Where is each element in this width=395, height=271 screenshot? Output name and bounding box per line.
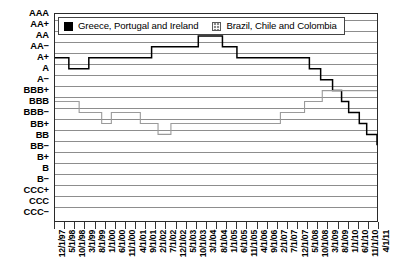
x-axis-label: 11/1/10 [371, 230, 380, 257]
x-axis-label: 5/1/03 [189, 230, 198, 253]
x-axis-label: 9/1/01 [149, 230, 158, 253]
x-axis-label: 12/1/97 [58, 230, 67, 257]
x-axis-label: 9/1/06 [270, 230, 279, 253]
x-axis-tick [338, 222, 339, 229]
x-axis-label: 2/1/02 [159, 230, 168, 253]
x-axis-tick [64, 222, 65, 229]
x-axis-tick [105, 222, 106, 229]
x-axis-label: 3/1/09 [331, 230, 340, 253]
x-axis-tick [74, 222, 75, 229]
legend-entry: Greece, Portugal and Ireland [64, 21, 198, 31]
x-axis-label: 4/1/01 [139, 230, 148, 253]
y-axis-label: BBB+ [24, 85, 49, 94]
x-axis-tick [236, 222, 237, 229]
y-axis-label: BBB− [24, 107, 49, 116]
x-axis-tick [186, 222, 187, 229]
y-axis-label: B− [37, 174, 49, 183]
x-axis-label: 4/1/06 [260, 230, 269, 253]
x-axis-tick [327, 222, 328, 229]
x-axis-tick [216, 222, 217, 229]
y-axis-label: CCC [29, 196, 49, 205]
x-axis-tick [54, 222, 55, 229]
x-axis-label: 8/1/09 [341, 230, 350, 253]
x-axis-tick [348, 222, 349, 229]
x-axis-tick [196, 222, 197, 229]
plot-area: Greece, Portugal and IrelandBrazil, Chil… [54, 13, 378, 222]
x-axis-label: 11/1/00 [128, 230, 137, 257]
x-axis-label: 8/1/99 [98, 230, 107, 253]
x-axis-label: 6/1/10 [361, 230, 370, 253]
x-axis-label: 1/1/05 [230, 230, 239, 253]
x-axis-tick [358, 222, 359, 229]
x-axis-tick [95, 222, 96, 229]
y-axis-label: BB+ [30, 119, 49, 128]
y-axis-label: BB [36, 130, 49, 139]
x-axis-tick [267, 222, 268, 229]
legend-swatch-icon [212, 22, 221, 31]
x-axis-label: 2/1/07 [280, 230, 289, 253]
x-axis-label: 7/1/07 [290, 230, 299, 253]
x-axis-tick [317, 222, 318, 229]
x-axis-tick [246, 222, 247, 229]
legend: Greece, Portugal and IrelandBrazil, Chil… [58, 17, 345, 35]
series-line [55, 91, 377, 135]
x-axis-label: 11/1/05 [250, 230, 259, 257]
x-axis-label: 5/1/08 [311, 230, 320, 253]
x-axis-tick [145, 222, 146, 229]
y-axis: AAAAA+AAAA−A+AA−BBB+BBBBBB−BB+BBBB−B+BB−… [0, 0, 52, 271]
x-axis-tick [257, 222, 258, 229]
x-axis-tick [206, 222, 207, 229]
x-axis-tick [84, 222, 85, 229]
x-axis-label: 6/1/05 [240, 230, 249, 253]
y-axis-label: A− [37, 74, 49, 83]
x-axis-tick [226, 222, 227, 229]
x-axis: 12/1/975/1/9810/1/983/1/998/1/991/1/006/… [54, 222, 378, 271]
x-axis-label: 12/1/02 [179, 230, 188, 257]
x-axis-label: 8/1/04 [220, 230, 229, 253]
x-axis-tick [165, 222, 166, 229]
x-axis-tick [368, 222, 369, 229]
x-axis-label: 1/1/10 [351, 230, 360, 253]
sovereign-rating-chart: AAAAA+AAAA−A+AA−BBB+BBBBBB−BB+BBBB−B+BB−… [0, 0, 395, 271]
y-axis-label: A [42, 63, 49, 72]
x-axis-label: 3/1/99 [88, 230, 97, 253]
x-axis-label: 12/1/07 [301, 230, 310, 257]
x-axis-tick [125, 222, 126, 229]
legend-swatch-icon [64, 22, 73, 31]
y-axis-label: AAA [29, 8, 49, 17]
x-axis-tick [135, 222, 136, 229]
y-axis-label: CCC− [24, 207, 49, 216]
x-axis-label: 5/1/98 [68, 230, 77, 253]
x-axis-tick [307, 222, 308, 229]
x-axis-label: 7/1/02 [169, 230, 178, 253]
y-axis-label: B [42, 163, 49, 172]
x-axis-tick [176, 222, 177, 229]
y-axis-label: BB− [30, 141, 49, 150]
y-axis-label: AA− [30, 41, 49, 50]
legend-label: Greece, Portugal and Ireland [78, 21, 198, 31]
y-axis-label: B+ [37, 152, 49, 161]
y-axis-label: AA [36, 30, 49, 39]
x-axis-label: 10/1/03 [199, 230, 208, 257]
y-axis-label: AA+ [30, 19, 49, 28]
x-axis-tick [115, 222, 116, 229]
x-axis-label: 10/1/08 [321, 230, 330, 257]
y-axis-label: A+ [37, 52, 49, 61]
cropped-title-remnant [0, 0, 395, 9]
x-axis-tick [277, 222, 278, 229]
legend-entry: Brazil, Chile and Colombia [212, 21, 336, 31]
y-axis-label: CCC+ [24, 185, 49, 194]
y-axis-label: BBB [29, 96, 49, 105]
x-axis-tick [297, 222, 298, 229]
x-axis-tick [378, 222, 379, 229]
x-axis-tick [155, 222, 156, 229]
x-axis-label: 10/1/98 [78, 230, 87, 257]
x-axis-label: 6/1/00 [118, 230, 127, 253]
x-axis-label: 4/1/11 [382, 230, 391, 252]
x-axis-label: 3/1/04 [209, 230, 218, 253]
series-lines [55, 14, 377, 221]
x-axis-label: 1/1/00 [108, 230, 117, 253]
legend-label: Brazil, Chile and Colombia [226, 21, 336, 31]
x-axis-tick [287, 222, 288, 229]
